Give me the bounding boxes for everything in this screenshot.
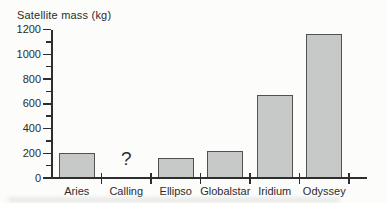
bar-ellipso: [158, 158, 194, 178]
figure-satellite-mass-chart: Satellite mass (kg) Aries?CallingEllipso…: [0, 0, 387, 203]
y-minor-tick: [46, 91, 51, 93]
y-tick-label: 600: [9, 97, 41, 110]
y-axis-line: [51, 30, 53, 180]
y-tick-label: 200: [9, 147, 41, 160]
bar-odyssey: [306, 34, 342, 178]
x-tick: [348, 173, 350, 184]
x-tick: [299, 173, 301, 184]
y-minor-tick: [46, 66, 51, 68]
y-minor-tick: [46, 140, 51, 142]
y-major-tick: [43, 29, 51, 31]
x-tick: [200, 173, 202, 184]
y-tick-label: 400: [9, 122, 41, 135]
x-category-label-globalstar: Globalstar: [200, 185, 250, 197]
y-tick-label: 800: [9, 73, 41, 86]
y-major-tick: [43, 177, 51, 179]
y-major-tick: [43, 54, 51, 56]
x-category-label-odyssey: Odyssey: [303, 185, 346, 197]
y-major-tick: [43, 128, 51, 130]
y-minor-tick: [46, 165, 51, 167]
y-major-tick: [43, 103, 51, 105]
x-tick: [150, 173, 152, 184]
y-tick-label: 0: [9, 172, 41, 185]
x-category-label-iridium: Iridium: [258, 185, 291, 197]
y-minor-tick: [46, 115, 51, 117]
bar-globalstar: [207, 151, 243, 178]
bar-aries: [59, 153, 95, 178]
y-tick-label: 1200: [9, 23, 41, 36]
x-category-label-aries: Aries: [64, 185, 89, 197]
y-tick-label: 1000: [9, 48, 41, 61]
y-major-tick: [43, 78, 51, 80]
y-minor-tick: [46, 41, 51, 43]
x-tick: [101, 173, 103, 184]
x-tick: [249, 173, 251, 184]
missing-data-question-mark: ?: [121, 148, 132, 170]
x-axis-line: [51, 177, 367, 179]
bar-iridium: [257, 95, 293, 178]
y-major-tick: [43, 153, 51, 155]
x-category-label-ellipso: Ellipso: [160, 185, 192, 197]
bar-chart-plot-area: Aries?CallingEllipsoGlobalstarIridiumOdy…: [0, 0, 387, 203]
x-category-label-calling: Calling: [109, 185, 143, 197]
scan-artifact-smudge: [8, 198, 340, 202]
